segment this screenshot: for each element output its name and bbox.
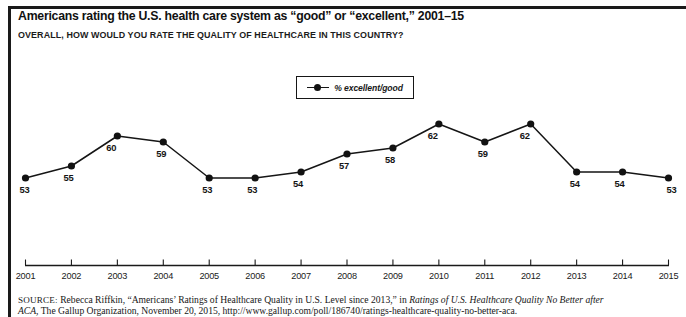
x-axis-tick-label: 2013	[567, 271, 587, 281]
x-axis-tick-label: 2012	[521, 271, 541, 281]
x-axis-tick-label: 2005	[199, 271, 219, 281]
frame-left-border-lower	[8, 294, 11, 317]
chart-svg	[0, 0, 686, 290]
data-point-label: 62	[428, 130, 438, 141]
data-point-marker[interactable]	[481, 138, 488, 145]
x-axis-tick-label: 2004	[153, 271, 173, 281]
data-point-marker[interactable]	[114, 132, 121, 139]
data-point-marker[interactable]	[252, 174, 259, 181]
data-point-marker[interactable]	[206, 174, 213, 181]
data-point-label: 59	[478, 148, 488, 159]
figure-container: Americans rating the U.S. health care sy…	[0, 0, 686, 317]
x-axis-tick-label: 2006	[245, 271, 265, 281]
x-axis-tick-label: 2015	[659, 271, 679, 281]
data-point-marker[interactable]	[297, 168, 304, 175]
data-point-label: 59	[156, 148, 166, 159]
data-point-label: 60	[106, 142, 116, 153]
data-point-marker[interactable]	[160, 138, 167, 145]
data-point-marker[interactable]	[527, 120, 534, 127]
data-point-label: 53	[666, 184, 676, 195]
x-axis-tick-label: 2002	[62, 271, 82, 281]
x-axis-tick-label: 2001	[16, 271, 36, 281]
data-point-marker[interactable]	[619, 168, 626, 175]
source-text-b: The Gallup Organization, November 20, 20…	[39, 305, 518, 316]
source-note: SOURCE: Rebecca Riffkin, “Americans’ Rat…	[18, 295, 676, 316]
source-text-a: Rebecca Riffkin, “Americans’ Ratings of …	[58, 294, 409, 305]
data-point-label: 53	[19, 184, 29, 195]
x-axis-tick-label: 2011	[475, 271, 494, 281]
data-point-label: 54	[293, 178, 303, 189]
data-point-label: 55	[63, 172, 73, 183]
data-point-label: 54	[615, 178, 625, 189]
source-title-part2: ACA,	[18, 305, 39, 316]
data-point-marker[interactable]	[573, 168, 580, 175]
line-chart-plot: 5355605953535457586259625454532001200220…	[0, 0, 686, 290]
source-prefix: SOURCE:	[18, 295, 58, 305]
data-point-marker[interactable]	[389, 144, 396, 151]
data-point-marker[interactable]	[343, 150, 350, 157]
x-axis-tick-label: 2010	[429, 271, 449, 281]
data-point-label: 53	[247, 184, 257, 195]
data-point-marker[interactable]	[435, 120, 442, 127]
data-point-label: 54	[570, 178, 580, 189]
data-point-marker[interactable]	[68, 162, 75, 169]
data-point-marker[interactable]	[665, 174, 672, 181]
data-point-label: 58	[385, 154, 395, 165]
data-point-label: 57	[339, 160, 349, 171]
x-axis-tick-label: 2009	[383, 271, 403, 281]
x-axis-tick-label: 2014	[613, 271, 633, 281]
x-axis-tick-label: 2008	[337, 271, 357, 281]
data-point-label: 62	[520, 130, 530, 141]
x-axis-tick-label: 2003	[108, 271, 128, 281]
data-point-marker[interactable]	[22, 174, 29, 181]
x-axis-tick-label: 2007	[291, 271, 311, 281]
data-point-label: 53	[202, 184, 212, 195]
source-title-part1: Ratings of U.S. Healthcare Quality No Be…	[409, 294, 603, 305]
